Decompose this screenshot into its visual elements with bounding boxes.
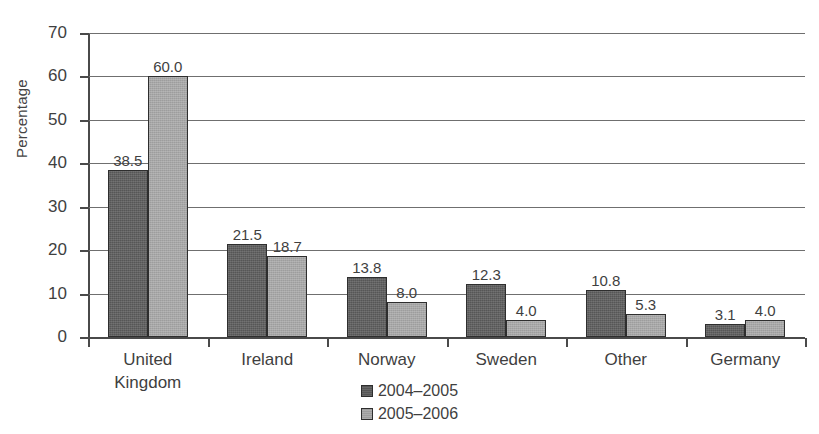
y-axis-title: Percentage [13,39,30,199]
legend-swatch [361,408,373,420]
legend-item: 2004–2005 [361,382,458,400]
x-axis-tick [805,338,807,347]
y-axis-tick: 40 [80,163,89,165]
x-axis-tick [686,338,688,347]
bar [108,170,148,337]
x-axis-category-label: Germany [675,348,815,371]
gridline [88,207,805,208]
bar [387,302,427,337]
bar [267,256,307,337]
y-axis-tick-label: 70 [48,23,67,43]
legend-item: 2005–2006 [361,405,458,423]
x-axis-tick [208,338,210,347]
bar-value-label: 13.8 [343,259,391,276]
bar-value-label: 4.0 [741,302,789,319]
bar-value-label: 4.0 [502,302,550,319]
legend-label: 2004–2005 [378,382,458,400]
legend-label: 2005–2006 [378,405,458,423]
gridline [88,294,805,295]
gridline [88,250,805,251]
bar [626,314,666,337]
bar-value-label: 8.0 [383,284,431,301]
legend: 2004–20052005–2006 [0,382,819,423]
y-axis-tick: 30 [80,207,89,209]
bar-value-label: 10.8 [582,272,630,289]
y-axis-tick-label: 10 [48,283,67,303]
y-axis-tick-label: 20 [48,240,67,260]
bar-value-label: 38.5 [104,152,152,169]
bar-chart: Percentage 010203040506070 38.560.021.51… [0,0,819,434]
y-axis-tick-label: 30 [48,196,67,216]
gridline [88,76,805,77]
y-axis-tick-label: 60 [48,66,67,86]
y-axis-tick-label: 0 [58,327,67,347]
y-axis-tick: 10 [80,294,89,296]
y-axis-tick-label: 40 [48,153,67,173]
y-axis-tick: 20 [80,250,89,252]
bar-value-label: 60.0 [144,58,192,75]
bar [466,284,506,337]
y-axis-tick: 70 [80,33,89,35]
x-axis-tick [566,338,568,347]
x-axis-tick [447,338,449,347]
bar [227,244,267,337]
x-axis-tick [327,338,329,347]
y-axis-tick: 50 [80,120,89,122]
bar [347,277,387,337]
gridline [88,163,805,164]
bar [745,320,785,337]
plot-area: 010203040506070 38.560.021.518.713.88.01… [88,33,805,338]
bar [705,324,745,337]
bar-value-label: 12.3 [462,266,510,283]
bar [586,290,626,337]
legend-swatch [361,385,373,397]
bar [148,76,188,337]
gridline [88,120,805,121]
gridline [88,33,805,34]
bar-value-label: 18.7 [263,238,311,255]
y-axis-tick-label: 50 [48,109,67,129]
bar [506,320,546,337]
bar-value-label: 5.3 [622,296,670,313]
y-axis-tick: 60 [80,76,89,78]
x-axis-tick [88,338,90,347]
